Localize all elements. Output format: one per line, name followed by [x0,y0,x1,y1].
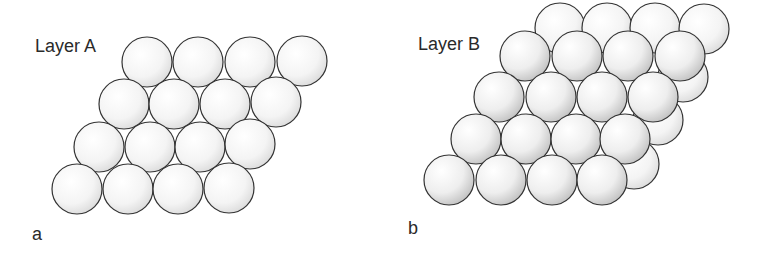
sphere [526,72,576,122]
sphere [149,79,199,129]
sphere [424,155,474,205]
panel-letter-b: b [408,218,418,239]
sphere [103,164,153,214]
sphere [251,77,301,127]
layer-a [52,36,327,214]
layer-a-title: Layer A [35,36,96,57]
sphere [99,79,149,129]
sphere [153,164,203,214]
panel-letter-a: a [32,224,42,245]
layer-b-on-top [424,31,705,205]
sphere [225,119,275,169]
layer-b-title: Layer B [418,34,480,55]
sphere [527,155,577,205]
sphere [204,163,254,213]
sphere [577,155,627,205]
close-packing-diagram [0,0,760,254]
sphere [628,72,678,122]
sphere [476,155,526,205]
panel-a-layer-a [52,36,327,214]
sphere [52,164,102,214]
